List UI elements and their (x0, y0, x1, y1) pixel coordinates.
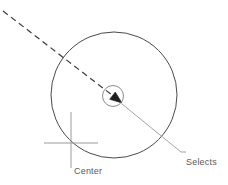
callout-label-line-1: Selects (186, 157, 217, 167)
dashed-cursor-line (3, 11, 119, 100)
callout-label: Selects center point (186, 137, 217, 185)
center-label: Center (74, 166, 102, 176)
callout-leader-line (122, 104, 186, 152)
cursor-arrowhead (110, 92, 122, 103)
diagram-canvas: Center Selects center point (0, 0, 228, 185)
